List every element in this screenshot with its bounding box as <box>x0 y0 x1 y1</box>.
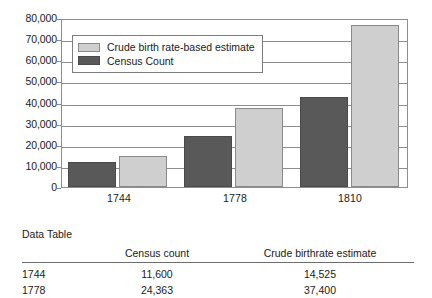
legend-swatch-census-icon <box>78 56 100 65</box>
y-tick-label: 30,000 <box>0 119 57 130</box>
legend-swatch-estimate-icon <box>78 43 100 52</box>
table-cell-census-count: 24,363 <box>88 282 226 298</box>
table-row: 177824,36337,400 <box>22 282 414 298</box>
legend-item-estimate: Crude birth rate-based estimate <box>78 41 255 54</box>
y-tick-label: 20,000 <box>0 140 57 151</box>
bar-census-1744 <box>68 162 116 187</box>
bar-census-1810 <box>300 97 348 187</box>
legend-item-census: Census Count <box>78 54 255 67</box>
column-header-year <box>22 245 88 263</box>
y-tick-label: 70,000 <box>0 34 57 45</box>
legend-label-estimate: Crude birth rate-based estimate <box>107 41 255 53</box>
y-tick-label: 0 <box>0 182 57 193</box>
table-row: 174411,60014,525 <box>22 263 414 283</box>
bar-census-1778 <box>184 136 232 187</box>
y-axis: 80,00070,00060,00050,00040,00030,00020,0… <box>0 0 57 200</box>
chart-legend: Crude birth rate-based estimate Census C… <box>72 35 263 73</box>
data-table-caption: Data Table <box>22 228 414 241</box>
bar-chart-figure: 80,00070,00060,00050,00040,00030,00020,0… <box>0 0 432 220</box>
x-tick-label: 1810 <box>292 192 408 205</box>
table-cell-year: 1778 <box>22 282 88 298</box>
y-tick-label: 40,000 <box>0 98 57 109</box>
table-header-row: Census count Crude birthrate estimate <box>22 245 414 263</box>
x-tick-label: 1778 <box>177 192 293 205</box>
data-table-body: 174411,60014,525177824,36337,400 <box>22 263 414 298</box>
data-table: Census count Crude birthrate estimate 17… <box>22 245 414 298</box>
data-table-head: Census count Crude birthrate estimate <box>22 245 414 263</box>
y-tick-mark <box>57 188 61 189</box>
table-cell-crude-birthrate-estimate: 14,525 <box>226 263 414 283</box>
bar-estimate-1778 <box>235 108 283 187</box>
bar-estimate-1744 <box>119 156 167 187</box>
bar-estimate-1810 <box>351 25 399 187</box>
y-tick-label: 10,000 <box>0 161 57 172</box>
column-header-census-count: Census count <box>88 245 226 263</box>
table-cell-census-count: 11,600 <box>88 263 226 283</box>
table-cell-year: 1744 <box>22 263 88 283</box>
y-tick-label: 50,000 <box>0 76 57 87</box>
x-axis: 174417781810 <box>61 192 408 210</box>
column-header-crude-birthrate-estimate: Crude birthrate estimate <box>226 245 414 263</box>
y-tick-label: 60,000 <box>0 55 57 66</box>
legend-label-census: Census Count <box>107 55 174 67</box>
y-tick-label: 80,000 <box>0 13 57 24</box>
x-tick-label: 1744 <box>61 192 177 205</box>
data-table-section: Data Table Census count Crude birthrate … <box>22 228 414 298</box>
table-cell-crude-birthrate-estimate: 37,400 <box>226 282 414 298</box>
